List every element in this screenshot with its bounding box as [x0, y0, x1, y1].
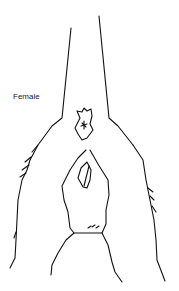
right-upper-outline	[99, 16, 133, 145]
right-body-outline	[133, 145, 165, 281]
left-body-outline	[10, 145, 38, 268]
right-leg-outline	[102, 233, 122, 282]
vulva-slit	[84, 166, 89, 186]
anatomy-drawing	[0, 0, 179, 291]
left-leg-outline	[51, 233, 74, 275]
genital-region	[62, 150, 109, 233]
anus-mark	[81, 121, 87, 129]
hatching	[88, 225, 99, 228]
left-upper-outline	[32, 28, 71, 152]
